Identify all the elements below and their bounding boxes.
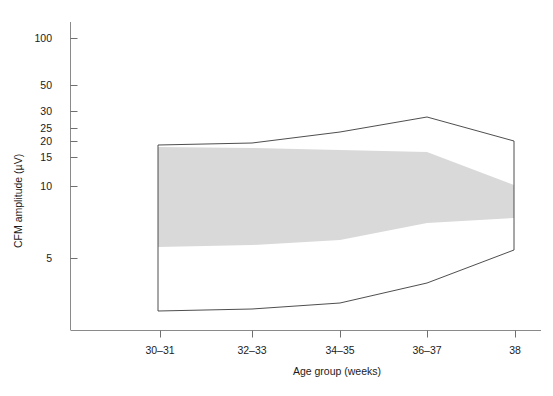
y-axis-ticks <box>71 39 78 259</box>
shaded-range-band <box>158 147 514 247</box>
cfm-amplitude-chart: CFM amplitude (µV) 100 50 30 25 20 15 10… <box>0 0 553 396</box>
chart-plot-area <box>0 0 553 396</box>
x-axis-ticks <box>161 331 516 338</box>
